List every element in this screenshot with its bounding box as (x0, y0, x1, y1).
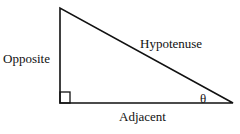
adjacent-label: Adjacent (119, 110, 166, 123)
theta-angle-label: θ (200, 92, 206, 105)
opposite-label: Opposite (3, 52, 50, 65)
right-triangle (60, 8, 233, 103)
right-angle-marker (60, 92, 70, 103)
hypotenuse-label: Hypotenuse (140, 37, 202, 50)
